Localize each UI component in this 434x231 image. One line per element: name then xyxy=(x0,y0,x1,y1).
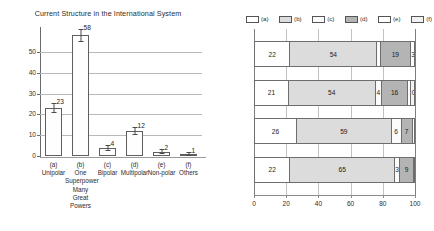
two-panel-figure: Current Structure in the International S… xyxy=(0,0,434,231)
stacked-bar-segment: 21 xyxy=(255,81,289,105)
error-bar-cap xyxy=(105,145,110,146)
y-tick-mark xyxy=(37,94,40,95)
legend-label: (c) xyxy=(327,16,334,22)
legend-swatch-icon xyxy=(411,16,424,23)
legend-item[interactable]: (a) xyxy=(246,16,269,23)
bar-value-label: 58 xyxy=(84,25,91,32)
bar xyxy=(72,35,90,156)
gridline xyxy=(40,73,202,74)
y-tick-mark xyxy=(37,73,40,74)
error-bar-cap xyxy=(159,153,164,154)
legend-label: (d) xyxy=(360,16,368,22)
error-bar-cap xyxy=(159,149,164,150)
stacked-bar-segment: 54 xyxy=(289,81,376,105)
legend-item[interactable]: (b) xyxy=(279,16,302,23)
y-tick-label: 10 xyxy=(29,132,36,139)
y-tick-label: 50 xyxy=(29,49,36,56)
stacked-bar-plot-area: 0204060801002014225419320152154416020162… xyxy=(254,29,415,195)
legend-label: (a) xyxy=(261,16,269,22)
gridline xyxy=(40,114,202,115)
x-category-label: (f)Others xyxy=(173,161,204,177)
stacked-bar-segment: 9 xyxy=(400,158,414,182)
y-tick-mark xyxy=(37,114,40,115)
stacked-bar-row: 20142254193 xyxy=(254,41,415,67)
y-tick-label: 0 xyxy=(32,153,36,160)
bar-value-label: 4 xyxy=(111,141,115,148)
x-category-name: Others xyxy=(173,169,204,177)
stacked-bar-segment: 6 xyxy=(392,119,402,143)
stacked-bar-segment: 0 xyxy=(411,81,415,105)
bar-value-label: 12 xyxy=(138,123,145,130)
error-bar-cap xyxy=(78,29,83,30)
error-bar-cap xyxy=(105,150,110,151)
x-tick-label: 80 xyxy=(379,201,386,208)
legend-item[interactable]: (e) xyxy=(378,16,401,23)
y-tick-label: 20 xyxy=(29,111,36,118)
bar-value-label: 23 xyxy=(57,99,64,106)
error-bar-cap xyxy=(78,41,83,42)
bar-chart-panel: Current Structure in the International S… xyxy=(0,0,216,231)
y-tick-mark xyxy=(37,52,40,53)
x-tick-label: 40 xyxy=(315,201,322,208)
x-tick-label: 20 xyxy=(283,201,290,208)
gridline xyxy=(40,94,202,95)
stacked-bar-segment: 54 xyxy=(290,42,377,66)
error-bar-cap xyxy=(186,152,191,153)
x-category-key: (f) xyxy=(173,161,204,169)
y-tick-label: 40 xyxy=(29,69,36,76)
legend-swatch-icon xyxy=(312,16,325,23)
error-bar-cap xyxy=(51,112,56,113)
stacked-bar-panel: (a)(b)(c)(d)(e)(f) 020406080100201422541… xyxy=(216,0,434,231)
bar-value-label: 2 xyxy=(165,145,169,152)
y-tick-mark xyxy=(37,135,40,136)
legend-label: (f) xyxy=(426,16,432,22)
legend-label: (b) xyxy=(294,16,302,22)
stacked-bar-row: 2017226539 xyxy=(254,157,415,183)
x-axis-line xyxy=(40,157,206,158)
legend-item[interactable]: (d) xyxy=(345,16,368,23)
stacked-bar-segment: 19 xyxy=(381,42,412,66)
stacked-bar-row: 201521544160 xyxy=(254,80,415,106)
x-tick-label: 60 xyxy=(347,201,354,208)
x-axis-line xyxy=(254,195,415,196)
stacked-bar-segment: 7 xyxy=(402,119,413,143)
stacked-bar-segment: 65 xyxy=(290,158,395,182)
gridline xyxy=(40,135,202,136)
legend: (a)(b)(c)(d)(e)(f) xyxy=(246,14,432,25)
bar-plot-area: 01020304050235841221 xyxy=(40,27,202,156)
legend-swatch-icon xyxy=(246,16,259,23)
stacked-bar-segment: 26 xyxy=(255,119,297,143)
x-tick-label: 100 xyxy=(410,201,421,208)
legend-item[interactable]: (f) xyxy=(411,16,432,23)
legend-swatch-icon xyxy=(378,16,391,23)
stacked-bar-row: 2016265967 xyxy=(254,118,415,144)
legend-item[interactable]: (c) xyxy=(312,16,334,23)
stacked-bar-segment: 16 xyxy=(382,81,408,105)
legend-swatch-icon xyxy=(345,16,358,23)
error-bar-cap xyxy=(51,103,56,104)
legend-label: (e) xyxy=(393,16,401,22)
x-tick-mark xyxy=(415,195,416,198)
bar-value-label: 1 xyxy=(192,148,196,155)
x-gridline xyxy=(415,29,416,195)
stacked-bar-segment xyxy=(413,119,415,143)
chart-title: Current Structure in the International S… xyxy=(0,9,216,18)
error-bar-cap xyxy=(132,127,137,128)
x-tick-label: 0 xyxy=(252,201,256,208)
stacked-bar-segment: 3 xyxy=(411,42,415,66)
bar xyxy=(45,108,63,156)
legend-swatch-icon xyxy=(279,16,292,23)
y-tick-label: 30 xyxy=(29,90,36,97)
stacked-bar-segment: 22 xyxy=(255,158,290,182)
error-bar-cap xyxy=(186,155,191,156)
gridline xyxy=(40,52,202,53)
y-tick-mark xyxy=(37,156,40,157)
stacked-bar-segment: 59 xyxy=(297,119,392,143)
error-bar-cap xyxy=(132,134,137,135)
stacked-bar-segment xyxy=(414,158,415,182)
stacked-bar-segment: 22 xyxy=(255,42,290,66)
